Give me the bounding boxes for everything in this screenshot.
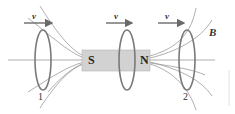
field-label-b: B bbox=[209, 27, 216, 38]
south-pole-label: S bbox=[88, 54, 95, 66]
loop-1-label: 1 bbox=[38, 92, 43, 102]
magnet-loops-diagram: v v v B S N 1 2 bbox=[0, 0, 235, 114]
velocity-label-2: v bbox=[114, 12, 118, 21]
velocity-label-3: v bbox=[165, 12, 169, 21]
north-pole-label: N bbox=[140, 54, 149, 66]
loop-2-label: 2 bbox=[183, 92, 188, 102]
field-lines-left bbox=[8, 6, 84, 108]
velocity-label-1: v bbox=[32, 12, 36, 21]
